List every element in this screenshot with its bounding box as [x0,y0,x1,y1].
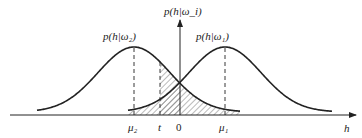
tick-label-t: t [158,121,162,133]
x-axis-label: h [344,122,350,134]
tick-label-origin: 0 [176,121,182,133]
curve-label-class-2: p(h|ω₂) [102,30,136,43]
tick-label-mu2: μ₂ [127,121,138,133]
y-axis-label: p(h|ω_i) [163,5,202,18]
curve-class-2 [37,47,240,111]
diagram-canvas: p(h|ω_i) h p(h|ω₂) p(h|ω₁) μ₂ t 0 μ₁ [0,0,362,138]
curve-label-class-1: p(h|ω₁) [195,30,229,43]
tick-label-mu1: μ₁ [218,121,229,133]
hatched-region-class2-tail [160,62,240,115]
